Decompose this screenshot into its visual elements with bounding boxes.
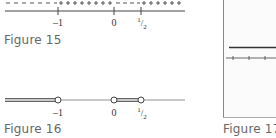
figure-16-number-line xyxy=(5,97,185,103)
figure-15-label-neg1: –1 xyxy=(53,17,63,28)
figure-17-caption: Figure 17 xyxy=(223,122,276,136)
figure-15-axis xyxy=(5,7,185,15)
open-circle-0 xyxy=(111,97,117,103)
figure-16-label-0: 0 xyxy=(112,107,117,118)
figure-15-caption: Figure 15 xyxy=(4,33,62,47)
plus-signs-middle xyxy=(59,1,112,5)
open-circle-neg1 xyxy=(55,97,61,103)
figure-17-graph xyxy=(223,0,276,118)
figure-16-caption: Figure 16 xyxy=(4,122,62,136)
frac-num: 1 xyxy=(137,16,141,24)
figure-16-label-neg1: –1 xyxy=(53,107,63,118)
frac-num: 1 xyxy=(137,106,141,114)
open-circle-half xyxy=(138,97,144,103)
plus-signs-right xyxy=(142,1,181,5)
frac-den: 2 xyxy=(143,23,147,31)
frac-den: 2 xyxy=(143,113,147,121)
figure-15-label-0: 0 xyxy=(112,17,117,28)
figure-15-label-half: 1/2 xyxy=(137,16,147,31)
figure-15-sign-row xyxy=(6,1,181,5)
figure-16-label-half: 1/2 xyxy=(137,106,147,121)
